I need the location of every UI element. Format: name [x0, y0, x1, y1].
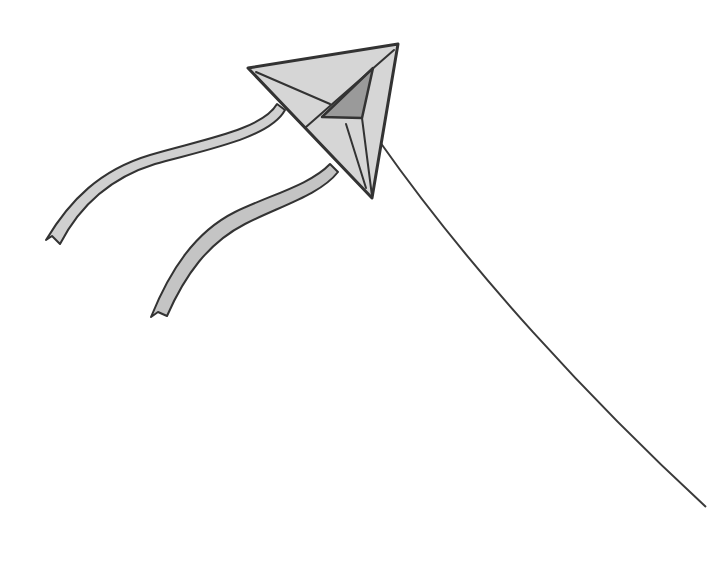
kite-string	[380, 142, 706, 507]
kite-tail-lower	[151, 164, 338, 317]
kite-illustration	[0, 0, 709, 571]
